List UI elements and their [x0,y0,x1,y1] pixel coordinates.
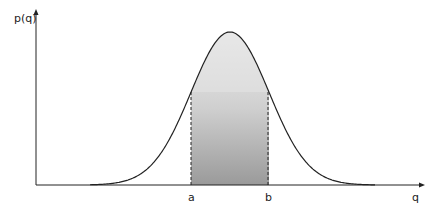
x-axis-label: q [412,191,419,204]
x-axis-arrow-icon [419,183,425,188]
density-diagram [0,0,439,211]
y-axis-label: p(q) [14,12,37,25]
interval-lower-label: a [188,191,195,204]
interval-upper-label: b [265,191,272,204]
